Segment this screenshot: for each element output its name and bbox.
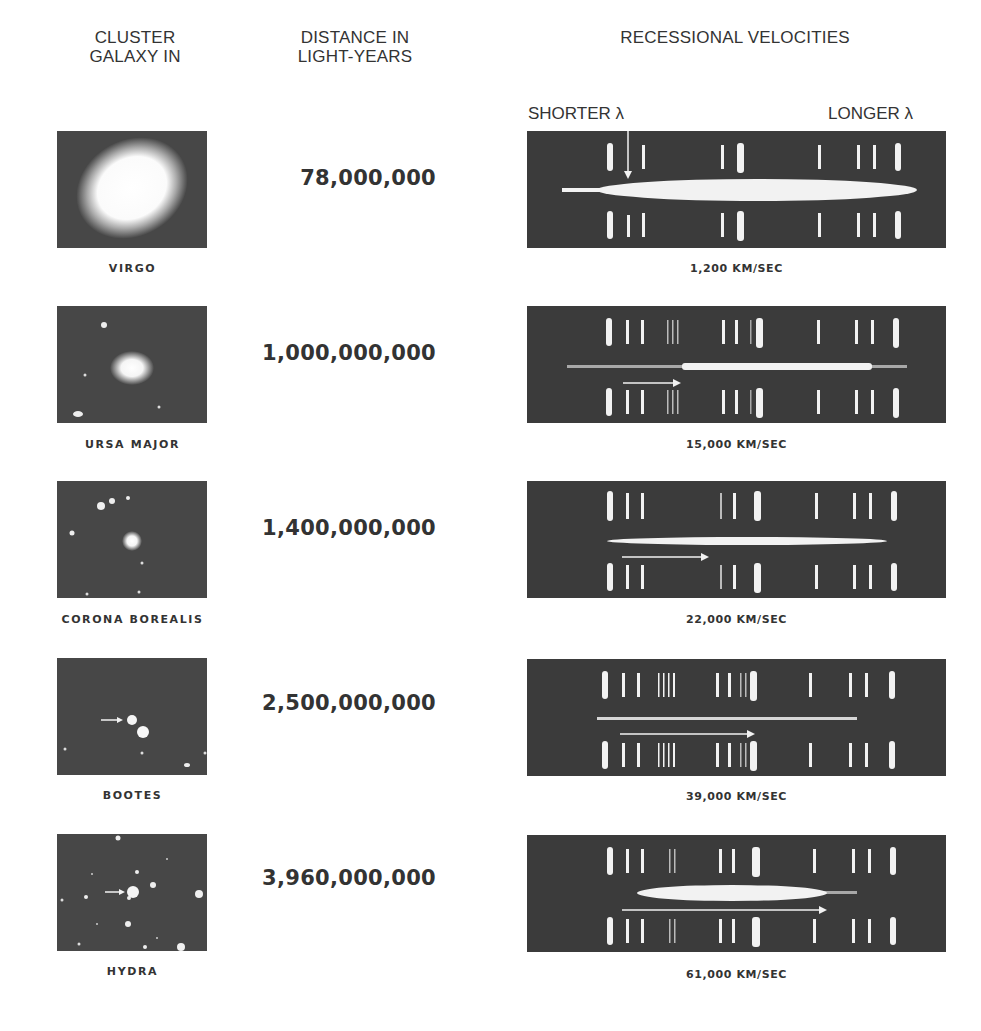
label-longer-wavelength: LONGER λ [828,104,913,124]
galaxy-image-corona-borealis [57,481,207,598]
header-velocities: RECESSIONAL VELOCITIES [540,28,930,47]
shift-arrow-right-icon [622,906,827,914]
distance-value: 1,400,000,000 [250,516,436,540]
header-distance-line2: LIGHT-YEARS [270,47,440,66]
spectrum-plate-corona-borealis [527,481,946,598]
cluster-name: VIRGO [20,262,245,275]
velocity-value: 39,000 KM/SEC [527,790,946,803]
spectrum-plate-hydra [527,835,946,952]
distance-value: 2,500,000,000 [250,691,436,715]
velocity-value: 61,000 KM/SEC [527,968,946,981]
spectrum-plate-bootes [527,659,946,776]
cluster-name: CORONA BOREALIS [20,613,245,626]
header-distance: DISTANCE IN LIGHT-YEARS [270,28,440,66]
velocity-value: 1,200 KM/SEC [527,262,946,275]
shift-arrow-right-icon [623,379,681,387]
header-cluster-line1: CLUSTER [60,28,210,47]
arrow-pointer-icon [105,889,125,895]
cluster-name: URSA MAJOR [20,438,245,451]
velocity-value: 22,000 KM/SEC [527,613,946,626]
cluster-name: HYDRA [20,965,245,978]
galaxy-image-bootes [57,658,207,775]
distance-value: 3,960,000,000 [250,866,436,890]
distance-value: 78,000,000 [250,166,436,190]
header-cluster: CLUSTER GALAXY IN [60,28,210,66]
header-distance-line1: DISTANCE IN [270,28,440,47]
galaxy-image-ursa-major [57,306,207,423]
shift-arrow-right-icon [620,730,755,738]
spectrum-plate-ursa-major [527,306,946,423]
velocity-value: 15,000 KM/SEC [527,438,946,451]
spectrum-plate-virgo [527,131,946,248]
galaxy-image-hydra [57,834,207,951]
arrow-pointer-icon [101,717,123,723]
header-cluster-line2: GALAXY IN [60,47,210,66]
cluster-name: BOOTES [20,789,245,802]
galaxy-image-virgo [57,131,207,248]
distance-value: 1,000,000,000 [250,341,436,365]
label-shorter-wavelength: SHORTER λ [528,104,624,124]
shift-arrow-right-icon [622,553,709,561]
shift-arrow-down-icon [624,131,632,179]
